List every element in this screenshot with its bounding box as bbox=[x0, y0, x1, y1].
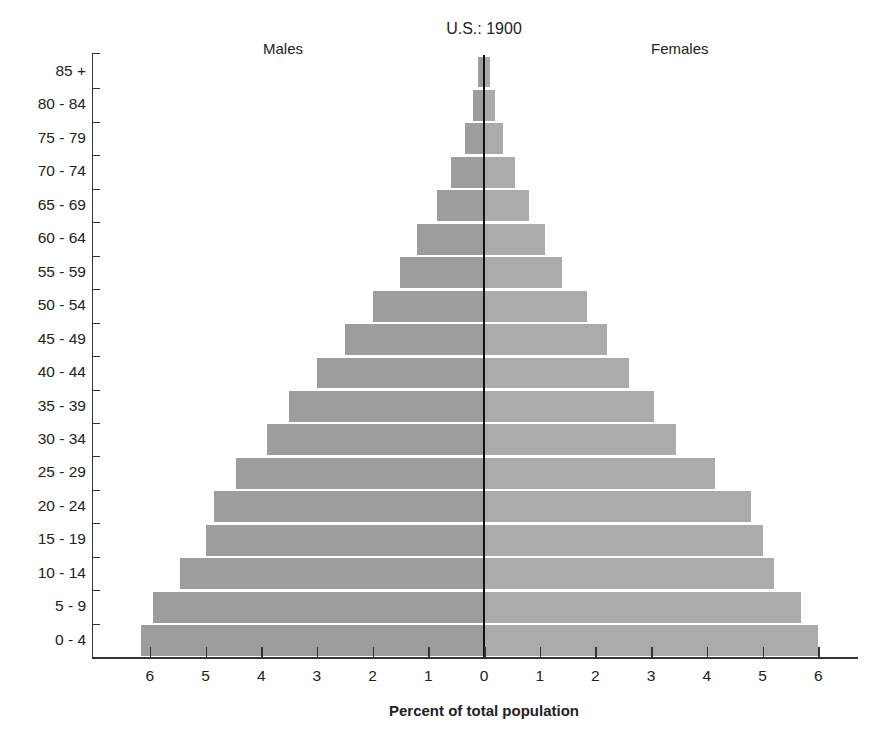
x-tick bbox=[206, 647, 208, 657]
y-tick-label: 70 - 74 bbox=[0, 162, 86, 180]
male-bar bbox=[214, 491, 484, 522]
y-tick bbox=[92, 189, 100, 190]
y-tick bbox=[92, 88, 100, 89]
x-tick bbox=[763, 647, 765, 657]
male-bar bbox=[180, 558, 484, 589]
x-tick-label: 0 bbox=[474, 667, 494, 685]
y-tick bbox=[92, 122, 100, 123]
x-tick bbox=[651, 647, 653, 657]
male-bar bbox=[141, 625, 484, 656]
female-bar bbox=[484, 90, 495, 121]
y-tick-label: 35 - 39 bbox=[0, 397, 86, 415]
x-tick bbox=[484, 647, 486, 657]
male-bar bbox=[400, 257, 484, 288]
x-tick-label: 1 bbox=[530, 667, 550, 685]
x-tick-label: 5 bbox=[196, 667, 216, 685]
x-tick-label: 4 bbox=[697, 667, 717, 685]
male-bar bbox=[236, 458, 484, 489]
male-bar bbox=[345, 324, 484, 355]
y-tick-label: 60 - 64 bbox=[0, 229, 86, 247]
y-tick bbox=[92, 155, 100, 156]
female-bar bbox=[484, 491, 751, 522]
male-bar bbox=[437, 190, 484, 221]
female-bar bbox=[484, 291, 587, 322]
y-tick bbox=[92, 256, 100, 257]
male-bar bbox=[206, 525, 485, 556]
y-tick-label: 40 - 44 bbox=[0, 363, 86, 381]
x-axis bbox=[92, 657, 858, 659]
population-pyramid-chart: U.S.: 1900 Males Females 85 +80 - 8475 -… bbox=[0, 0, 885, 745]
x-axis-title: Percent of total population bbox=[0, 702, 885, 719]
female-bar bbox=[484, 592, 801, 623]
female-bar bbox=[484, 358, 629, 389]
male-bar bbox=[289, 391, 484, 422]
x-tick bbox=[707, 647, 709, 657]
females-label: Females bbox=[651, 40, 709, 57]
x-tick-label: 2 bbox=[585, 667, 605, 685]
female-bar bbox=[484, 424, 676, 455]
female-bar bbox=[484, 224, 545, 255]
y-tick bbox=[92, 456, 100, 457]
y-tick-label: 10 - 14 bbox=[0, 564, 86, 582]
y-tick bbox=[92, 390, 100, 391]
y-tick bbox=[92, 222, 100, 223]
y-tick-label: 55 - 59 bbox=[0, 263, 86, 281]
males-label: Males bbox=[263, 40, 303, 57]
x-tick bbox=[150, 647, 152, 657]
male-bar bbox=[317, 358, 484, 389]
female-bar bbox=[484, 391, 654, 422]
y-tick bbox=[92, 557, 100, 558]
y-tick bbox=[92, 423, 100, 424]
y-tick-label: 15 - 19 bbox=[0, 530, 86, 548]
y-tick-label: 0 - 4 bbox=[0, 631, 86, 649]
x-tick bbox=[818, 647, 820, 657]
y-tick bbox=[92, 523, 100, 524]
male-bar bbox=[451, 157, 484, 188]
y-tick-label: 45 - 49 bbox=[0, 330, 86, 348]
y-tick-label: 65 - 69 bbox=[0, 196, 86, 214]
female-bar bbox=[484, 123, 503, 154]
male-bar bbox=[465, 123, 484, 154]
y-tick bbox=[92, 323, 100, 324]
female-bar bbox=[484, 324, 607, 355]
male-bar bbox=[417, 224, 484, 255]
x-tick-label: 4 bbox=[251, 667, 271, 685]
x-tick-label: 3 bbox=[641, 667, 661, 685]
x-tick-label: 6 bbox=[140, 667, 160, 685]
y-tick-label: 85 + bbox=[0, 62, 86, 80]
x-tick-label: 6 bbox=[808, 667, 828, 685]
y-tick-label: 75 - 79 bbox=[0, 129, 86, 147]
x-tick-label: 1 bbox=[418, 667, 438, 685]
y-tick-label: 20 - 24 bbox=[0, 497, 86, 515]
x-tick bbox=[261, 647, 263, 657]
x-tick bbox=[540, 647, 542, 657]
x-tick-label: 2 bbox=[363, 667, 383, 685]
y-tick bbox=[92, 289, 100, 290]
y-tick-label: 80 - 84 bbox=[0, 95, 86, 113]
female-bar bbox=[484, 190, 529, 221]
male-bar bbox=[373, 291, 484, 322]
x-tick-label: 5 bbox=[753, 667, 773, 685]
x-tick-label: 3 bbox=[307, 667, 327, 685]
x-tick bbox=[317, 647, 319, 657]
y-tick bbox=[92, 490, 100, 491]
female-bar bbox=[484, 157, 515, 188]
y-tick-label: 50 - 54 bbox=[0, 296, 86, 314]
female-bar bbox=[484, 458, 715, 489]
center-line bbox=[483, 55, 485, 657]
female-bar bbox=[484, 257, 562, 288]
x-tick bbox=[428, 647, 430, 657]
y-tick bbox=[92, 53, 100, 54]
male-bar bbox=[267, 424, 484, 455]
x-tick bbox=[373, 647, 375, 657]
female-bar bbox=[484, 558, 774, 589]
y-tick bbox=[92, 624, 100, 625]
y-tick bbox=[92, 590, 100, 591]
y-tick-label: 5 - 9 bbox=[0, 597, 86, 615]
male-bar bbox=[153, 592, 484, 623]
chart-title: U.S.: 1900 bbox=[0, 20, 885, 38]
y-tick-label: 25 - 29 bbox=[0, 463, 86, 481]
female-bar bbox=[484, 525, 763, 556]
y-tick bbox=[92, 356, 100, 357]
x-tick bbox=[595, 647, 597, 657]
